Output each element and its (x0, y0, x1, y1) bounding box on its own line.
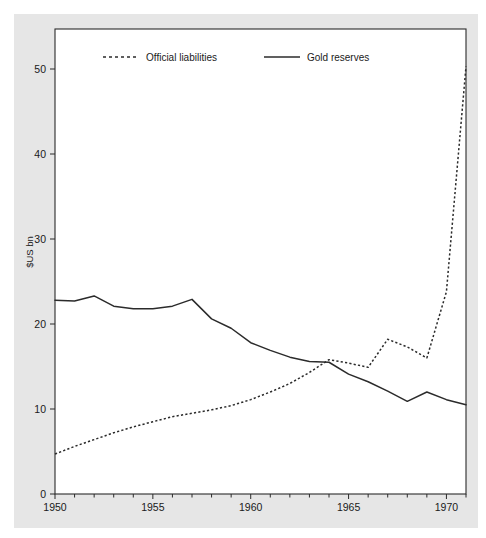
legend-label-official-liabilities: Official liabilities (146, 52, 217, 63)
plot-area-background (55, 29, 466, 494)
y-axis-label: $US bn (24, 236, 35, 268)
y-axis-ticks: 01020304050 (34, 63, 55, 500)
figure-container: 01020304050 19501955196019651970 $US bn … (0, 0, 486, 538)
x-axis-ticks: 19501955196019651970 (43, 494, 458, 513)
y-tick-label-10: 10 (34, 403, 46, 415)
x-tick-label-1955: 1955 (141, 501, 165, 513)
x-tick-label-1970: 1970 (435, 501, 459, 513)
legend-label-gold-reserves: Gold reserves (307, 52, 369, 63)
chart-svg: 01020304050 19501955196019651970 $US bn … (0, 0, 486, 538)
y-tick-label-30: 30 (34, 233, 46, 245)
y-tick-label-20: 20 (34, 318, 46, 330)
y-tick-label-0: 0 (40, 488, 46, 500)
x-tick-label-1950: 1950 (43, 501, 67, 513)
x-tick-label-1960: 1960 (239, 501, 263, 513)
y-tick-label-40: 40 (34, 148, 46, 160)
y-tick-label-50: 50 (34, 63, 46, 75)
x-tick-label-1965: 1965 (337, 501, 361, 513)
